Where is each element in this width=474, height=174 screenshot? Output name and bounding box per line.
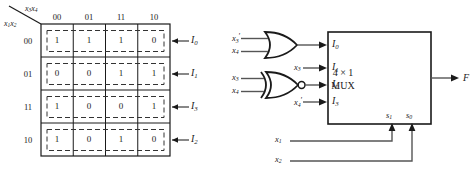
- direct-input-label-x3: x3: [294, 63, 301, 73]
- kmap-cell-r3c1: 0: [79, 135, 99, 144]
- mux-output-wire: [431, 75, 459, 82]
- kmap-cell-r0c1: 1: [79, 36, 99, 45]
- kmap-col-axis-label: x3x4: [25, 5, 38, 14]
- kmap-cell-r1c3: 1: [144, 69, 164, 78]
- nor-gate-input-label-0: x3: [232, 73, 239, 83]
- mux-output-label-f: F: [463, 73, 469, 83]
- kmap-row-header-2: 11: [18, 103, 38, 112]
- kmap-cell-r1c2: 1: [111, 69, 131, 78]
- kmap-row-header-1: 01: [18, 70, 38, 79]
- kmap-cell-r2c2: 0: [111, 102, 131, 111]
- mux-label-line2: MUX: [331, 80, 354, 91]
- kmap-col-header-2: 11: [111, 13, 131, 22]
- nor-gate-inversion-bubble: [298, 82, 305, 89]
- kmap-cell-r0c0: 1: [47, 36, 67, 45]
- x2-to-s0-wire: [290, 130, 412, 161]
- kmap-row-mux-input-1: I1: [191, 68, 198, 79]
- kmap-cell-r2c0: 1: [47, 102, 67, 111]
- select-source-label-x1: x1: [275, 135, 282, 145]
- mux-select-label-s0: s0: [406, 111, 412, 121]
- or-gate-icon: [241, 32, 327, 58]
- figure-kmap-to-mux: x3x4 x1x2 00 01 11 10 00 01 11 10 1 1 1 …: [0, 0, 474, 174]
- mux-select-label-s1: s1: [386, 111, 392, 121]
- kmap-row-header-3: 10: [18, 136, 38, 145]
- mux-input-label-i3: I3: [332, 96, 339, 107]
- mux-label-line1: 4 × 1: [333, 67, 354, 78]
- kmap-row-header-0: 00: [18, 37, 38, 46]
- kmap-diagram: [0, 0, 237, 174]
- select-line-wires: [290, 123, 415, 161]
- kmap-cell-r0c3: 0: [144, 36, 164, 45]
- kmap-col-header-3: 10: [144, 13, 164, 22]
- kmap-cell-r1c1: 0: [79, 69, 99, 78]
- kmap-cell-r2c1: 0: [79, 102, 99, 111]
- select-source-label-x2: x2: [275, 155, 282, 165]
- or-gate-input-label-0: x3′: [232, 33, 240, 45]
- kmap-col-header-0: 00: [47, 13, 67, 22]
- kmap-cell-r3c3: 0: [144, 135, 164, 144]
- kmap-row-axis-label: x1x2: [4, 20, 17, 29]
- or-gate-input-label-1: x4: [232, 46, 239, 56]
- kmap-row-mux-input-0: I0: [191, 35, 198, 46]
- kmap-col-header-1: 01: [79, 13, 99, 22]
- kmap-cell-r0c2: 1: [111, 36, 131, 45]
- kmap-cell-r3c0: 1: [47, 135, 67, 144]
- kmap-row-mux-input-3: I2: [191, 134, 198, 145]
- mux-input-label-i0: I0: [332, 39, 339, 50]
- kmap-row-arrows: [172, 38, 189, 143]
- kmap-cell-r2c3: 1: [144, 102, 164, 111]
- mux-center-label: 4 × 1 MUX: [313, 67, 373, 92]
- nor-gate-input-label-1: x4: [232, 86, 239, 96]
- kmap-cell-r3c2: 1: [111, 135, 131, 144]
- x1-to-s1-wire: [290, 130, 392, 141]
- kmap-cell-r1c0: 0: [47, 69, 67, 78]
- direct-input-label-x4prime: x4′: [294, 97, 302, 109]
- kmap-row-mux-input-2: I3: [191, 101, 198, 112]
